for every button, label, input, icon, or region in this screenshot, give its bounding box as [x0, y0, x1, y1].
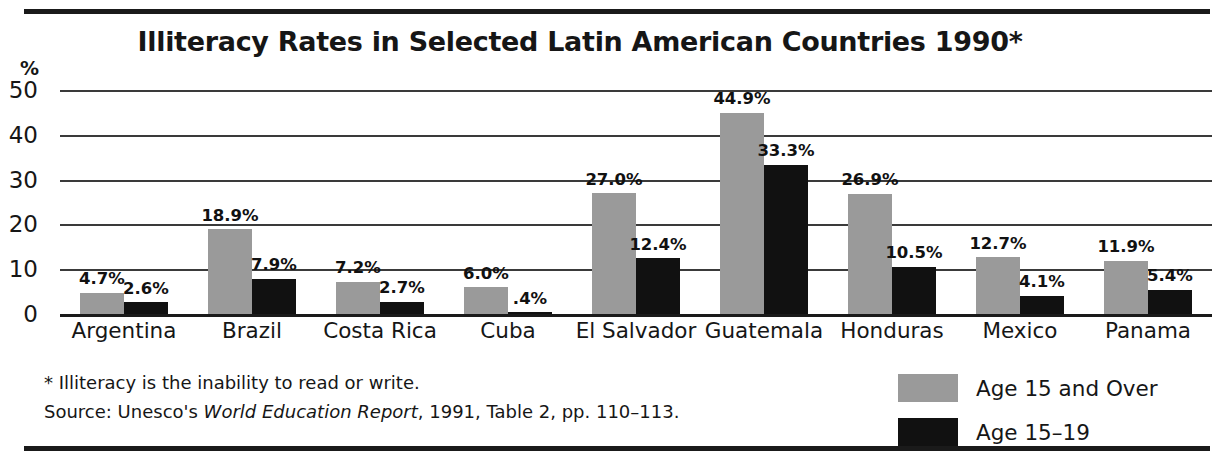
chart-figure: Illiteracy Rates in Selected Latin Ameri… [0, 0, 1228, 456]
bar-panama-age15to19[interactable] [1148, 290, 1192, 314]
bar-group: 27.0%12.4% [572, 90, 700, 314]
chart-legend: Age 15 and OverAge 15–19 [898, 370, 1158, 456]
bar-column: 26.9% [848, 90, 892, 314]
legend-label: Age 15 and Over [976, 376, 1158, 401]
bar-pair: 7.2%2.7% [316, 90, 444, 314]
legend-item[interactable]: Age 15 and Over [898, 370, 1158, 406]
category-label-mexico: Mexico [956, 318, 1084, 343]
bar-pair: 27.0%12.4% [572, 90, 700, 314]
footnotes: * Illiteracy is the inability to read or… [44, 368, 679, 426]
bar-column: 11.9% [1104, 90, 1148, 314]
bar-pair: 6.0%.4% [444, 90, 572, 314]
category-label-costa-rica: Costa Rica [316, 318, 444, 343]
bar-brazil-age15plus[interactable] [208, 229, 252, 314]
category-label-honduras: Honduras [828, 318, 956, 343]
bar-value-label: 5.4% [1147, 268, 1193, 285]
bar-column: 5.4% [1148, 90, 1192, 314]
bar-cuba-age15to19[interactable] [508, 312, 552, 314]
y-axis-unit-label: % [20, 57, 39, 79]
gridline-0 [60, 314, 1212, 317]
bar-value-label: 7.2% [335, 260, 381, 277]
bar-argentina-age15to19[interactable] [124, 302, 168, 314]
bar-column: 7.9% [252, 90, 296, 314]
bar-column: 44.9% [720, 90, 764, 314]
bar-value-label: 7.9% [251, 257, 297, 274]
bar-value-label: 2.6% [123, 281, 169, 298]
bar-column: 4.7% [80, 90, 124, 314]
bar-el-salvador-age15to19[interactable] [636, 258, 680, 314]
bar-group: 6.0%.4% [444, 90, 572, 314]
category-labels: ArgentinaBrazilCosta RicaCubaEl Salvador… [60, 318, 1212, 343]
source-suffix: , 1991, Table 2, pp. 110–113. [418, 401, 680, 422]
bar-value-label: 33.3% [757, 143, 814, 160]
bar-column: 2.6% [124, 90, 168, 314]
bar-groups: 4.7%2.6%18.9%7.9%7.2%2.7%6.0%.4%27.0%12.… [60, 90, 1212, 314]
bar-honduras-age15to19[interactable] [892, 267, 936, 314]
bar-pair: 11.9%5.4% [1084, 90, 1212, 314]
bar-guatemala-age15to19[interactable] [764, 165, 808, 314]
bar-brazil-age15to19[interactable] [252, 279, 296, 314]
bar-value-label: .4% [513, 291, 547, 308]
bar-pair: 44.9%33.3% [700, 90, 828, 314]
bar-column: 27.0% [592, 90, 636, 314]
bar-pair: 4.7%2.6% [60, 90, 188, 314]
bar-value-label: 10.5% [885, 245, 942, 262]
category-label-cuba: Cuba [444, 318, 572, 343]
plot-area: 50403020100 4.7%2.6%18.9%7.9%7.2%2.7%6.0… [60, 90, 1212, 314]
source-prefix: Source: Unesco's [44, 401, 204, 422]
bar-value-label: 6.0% [463, 266, 509, 283]
bar-group: 44.9%33.3% [700, 90, 828, 314]
bar-value-label: 2.7% [379, 280, 425, 297]
bar-pair: 12.7%4.1% [956, 90, 1084, 314]
bar-value-label: 12.7% [969, 236, 1026, 253]
bar-column: 6.0% [464, 90, 508, 314]
legend-label: Age 15–19 [976, 420, 1090, 445]
legend-item[interactable]: Age 15–19 [898, 414, 1158, 450]
bar-group: 26.9%10.5% [828, 90, 956, 314]
bar-column: 33.3% [764, 90, 808, 314]
bar-column: 12.4% [636, 90, 680, 314]
source-title: World Education Report [204, 401, 418, 422]
category-label-guatemala: Guatemala [700, 318, 828, 343]
legend-swatch [898, 374, 958, 402]
bar-value-label: 44.9% [713, 91, 770, 108]
bar-column: .4% [508, 90, 552, 314]
bar-group: 12.7%4.1% [956, 90, 1084, 314]
bar-column: 10.5% [892, 90, 936, 314]
bar-column: 4.1% [1020, 90, 1064, 314]
bar-value-label: 11.9% [1097, 239, 1154, 256]
bar-value-label: 4.1% [1019, 274, 1065, 291]
bar-value-label: 4.7% [79, 271, 125, 288]
bar-costa-rica-age15to19[interactable] [380, 302, 424, 314]
bottom-rule [24, 446, 1210, 451]
footnote-definition: * Illiteracy is the inability to read or… [44, 368, 679, 397]
bar-group: 7.2%2.7% [316, 90, 444, 314]
category-label-brazil: Brazil [188, 318, 316, 343]
bar-column: 12.7% [976, 90, 1020, 314]
bar-column: 18.9% [208, 90, 252, 314]
y-tick-label-40: 40 [0, 124, 38, 147]
y-tick-label-0: 0 [0, 303, 38, 326]
y-tick-label-50: 50 [0, 79, 38, 102]
bar-argentina-age15plus[interactable] [80, 293, 124, 314]
bar-mexico-age15to19[interactable] [1020, 296, 1064, 314]
footnote-source: Source: Unesco's World Education Report,… [44, 397, 679, 426]
bar-value-label: 27.0% [585, 172, 642, 189]
category-label-el-salvador: El Salvador [572, 318, 700, 343]
bar-cuba-age15plus[interactable] [464, 287, 508, 314]
bar-group: 18.9%7.9% [188, 90, 316, 314]
top-rule [24, 9, 1210, 14]
bar-costa-rica-age15plus[interactable] [336, 282, 380, 314]
bar-pair: 26.9%10.5% [828, 90, 956, 314]
bar-value-label: 12.4% [629, 237, 686, 254]
bar-panama-age15plus[interactable] [1104, 261, 1148, 314]
y-tick-label-30: 30 [0, 169, 38, 192]
bar-group: 11.9%5.4% [1084, 90, 1212, 314]
category-label-panama: Panama [1084, 318, 1212, 343]
legend-swatch [898, 418, 958, 446]
category-label-argentina: Argentina [60, 318, 188, 343]
chart-title: Illiteracy Rates in Selected Latin Ameri… [0, 26, 1160, 57]
bar-mexico-age15plus[interactable] [976, 257, 1020, 314]
y-tick-label-10: 10 [0, 258, 38, 281]
bar-column: 7.2% [336, 90, 380, 314]
